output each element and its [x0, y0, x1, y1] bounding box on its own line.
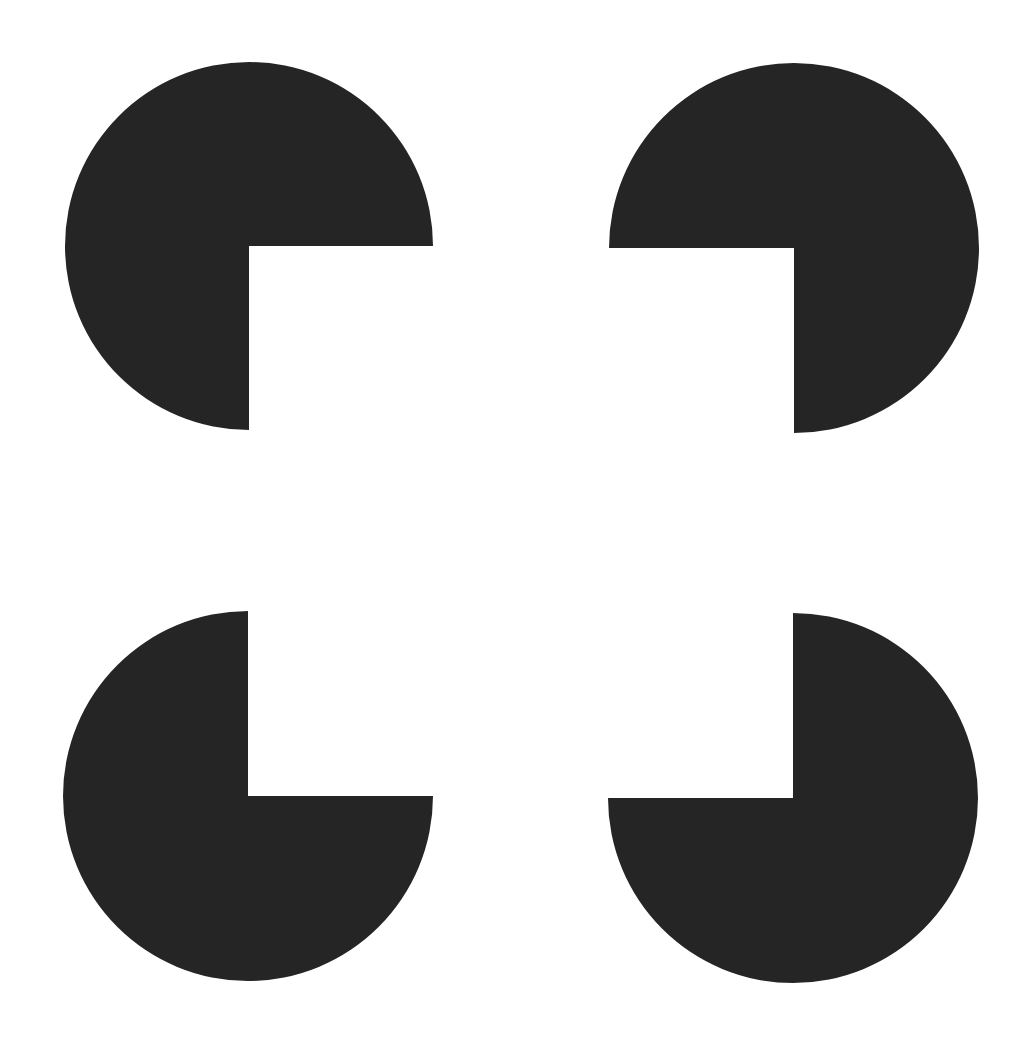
inducer-top-left [65, 62, 433, 430]
inducer-bottom-right [608, 613, 978, 983]
inducer-top-right [609, 63, 979, 433]
inducer-bottom-left [63, 611, 433, 981]
kanizsa-square-figure [0, 0, 1032, 1040]
